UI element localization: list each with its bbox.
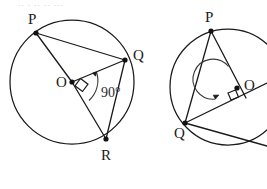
right-reflex-angle-arc: [193, 59, 228, 99]
right-point-P: [208, 28, 213, 33]
left-point-R: [103, 136, 108, 141]
geometry-drawing: [0, 0, 267, 189]
right-point-O: [234, 85, 239, 90]
left-segment-PQ: [36, 33, 125, 60]
right-reflex-arrowhead: [213, 95, 219, 99]
right-label-P: P: [205, 10, 213, 25]
left-point-P: [33, 30, 38, 35]
right-segment-Q-edge: [185, 123, 267, 146]
left-circle-figure: [10, 20, 134, 144]
geometry-figure-canvas: .. . .. .. ...: [0, 0, 267, 189]
left-point-O: [69, 79, 74, 84]
left-angle-arrowhead: [93, 72, 97, 76]
right-label-Q: Q: [174, 126, 185, 141]
left-label-P: P: [28, 12, 36, 27]
left-angle-arc: [89, 72, 98, 101]
left-angle-label: 90°: [101, 86, 121, 100]
right-segment-PO: [211, 31, 246, 98]
right-right-angle-mark: [228, 90, 239, 100]
left-label-R: R: [101, 148, 111, 163]
left-point-Q: [122, 57, 127, 62]
left-label-Q: Q: [133, 48, 144, 63]
right-label-O: O: [244, 78, 255, 93]
left-label-O: O: [56, 75, 67, 90]
